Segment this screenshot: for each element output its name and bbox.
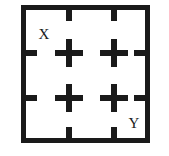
tick-bottom-1 — [66, 127, 72, 143]
tick-top-2 — [111, 5, 117, 21]
tick-top-1 — [66, 5, 72, 21]
tick-right-1 — [134, 50, 150, 56]
cross-mark-1 — [55, 39, 83, 67]
grid-diagram-figure: X Y — [0, 0, 169, 156]
tick-bottom-2 — [111, 127, 117, 143]
cross-mark-2 — [100, 39, 128, 67]
tick-left-1 — [21, 50, 37, 56]
tick-right-2 — [134, 95, 150, 101]
label-x: X — [39, 27, 50, 42]
cross-mark-4 — [100, 84, 128, 112]
cross-mark-3 — [55, 84, 83, 112]
label-y: Y — [129, 116, 140, 131]
tick-left-2 — [21, 95, 37, 101]
